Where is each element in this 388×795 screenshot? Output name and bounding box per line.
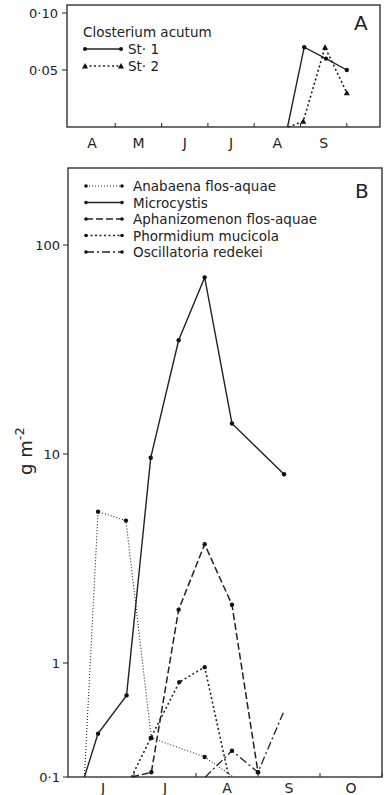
panel-a-x-tick-label: M	[132, 135, 144, 151]
panel-b-y-tick-label: 0·1	[39, 770, 60, 785]
panel-a: 0·100·05 AMJJAS A Closterium acutum St· …	[29, 5, 380, 151]
legend-circle-marker	[83, 47, 87, 51]
legend-circle-marker	[120, 250, 124, 254]
figure: 0·100·05 AMJJAS A Closterium acutum St· …	[0, 0, 388, 795]
panel-a-x-tick-label: S	[319, 135, 328, 151]
series-line	[132, 544, 258, 777]
data-point-triangle	[344, 90, 350, 96]
panel-b-legend-item: Anabaena flos-aquae	[84, 178, 276, 194]
panel-b-x-tick-label: J	[162, 780, 167, 795]
panel-a-legend-label: St· 1	[128, 41, 159, 57]
data-point	[230, 749, 234, 753]
series-line	[84, 277, 284, 777]
data-point-triangle	[322, 44, 328, 50]
data-point	[256, 770, 260, 774]
panel-b-series-aphanizomenon-flos-aquae	[132, 542, 260, 777]
panel-a-x-tick-label: A	[273, 135, 283, 151]
panel-a-letter: A	[354, 11, 368, 35]
panel-b-series-anabaena-flos-aquae	[84, 509, 233, 777]
y-axis-label-unit: g m	[15, 440, 36, 475]
data-point	[124, 518, 128, 522]
panel-b-legend-label: Microcystis	[133, 195, 208, 211]
data-point	[345, 68, 349, 72]
series-line	[84, 512, 233, 777]
data-point	[202, 665, 206, 669]
legend-circle-marker	[84, 250, 88, 254]
legend-circle-marker	[84, 184, 88, 188]
data-point	[230, 421, 234, 425]
legend-triangle-marker	[118, 63, 124, 69]
panel-b-y-tick-label: 1	[52, 656, 60, 671]
panel-b-legend-label: Oscillatoria redekei	[133, 244, 263, 260]
series-line	[288, 47, 347, 127]
panel-b-x-tick-label: A	[222, 780, 232, 795]
panel-b-legend-label: Anabaena flos-aquae	[133, 178, 276, 194]
panel-a-legend-label: St· 2	[128, 58, 159, 74]
panel-b-series-microcystis	[84, 275, 286, 777]
panel-b: 1001010·1 JJASO B Anabaena flos-aquaeMic…	[12, 168, 382, 795]
legend-circle-marker	[120, 217, 124, 221]
panel-a-x-tick-label: J	[182, 135, 187, 151]
panel-b-x-tick-label: O	[345, 780, 356, 795]
panel-b-y-axis-label: g m-2	[12, 427, 36, 475]
data-point	[202, 275, 206, 279]
legend-triangle-marker	[82, 63, 88, 69]
panel-b-legend-item: Oscillatoria redekei	[84, 244, 263, 260]
data-point	[282, 472, 286, 476]
panel-a-y-tick-label: 0·10	[29, 6, 58, 21]
legend-circle-marker	[120, 184, 124, 188]
data-point	[176, 338, 180, 342]
legend-circle-marker	[84, 234, 88, 238]
data-point	[176, 607, 180, 611]
panel-a-x-tick-label: A	[87, 135, 97, 151]
panel-a-series-1	[288, 45, 349, 127]
legend-circle-marker	[120, 234, 124, 238]
panel-b-x-tick-label: J	[100, 780, 105, 795]
legend-circle-marker	[120, 201, 124, 205]
y-axis-label-exponent: -2	[12, 427, 27, 440]
panel-a-legend-item: St· 2	[82, 58, 159, 74]
panel-a-y-tick-label: 0·05	[29, 63, 58, 78]
legend-circle-marker	[119, 47, 123, 51]
panel-b-y-tick-label: 100	[35, 238, 60, 253]
data-point-triangle	[300, 118, 306, 124]
panel-b-legend-item: Phormidium mucicola	[84, 228, 279, 244]
data-point	[124, 693, 128, 697]
data-point	[230, 603, 234, 607]
panel-a-legend-item: St· 1	[83, 41, 159, 57]
legend-circle-marker	[84, 217, 88, 221]
panel-b-legend-label: Phormidium mucicola	[133, 228, 279, 244]
data-point	[149, 456, 153, 460]
panel-a-legend-title: Closterium acutum	[83, 24, 212, 40]
data-point	[177, 680, 181, 684]
panel-b-series-phormidium-mucicola	[132, 665, 229, 777]
panel-b-legend-label: Aphanizomenon flos-aquae	[133, 211, 317, 227]
data-point	[149, 736, 153, 740]
data-point	[96, 509, 100, 513]
panel-b-y-tick-label: 10	[43, 447, 60, 462]
data-point	[302, 45, 306, 49]
legend-circle-marker	[84, 201, 88, 205]
data-point	[324, 56, 328, 60]
panel-b-x-tick-label: S	[285, 780, 294, 795]
panel-b-legend-item: Microcystis	[84, 195, 208, 211]
panel-a-series-2	[288, 44, 349, 127]
data-point	[202, 755, 206, 759]
data-point	[149, 770, 153, 774]
data-point	[96, 731, 100, 735]
series-line	[288, 47, 346, 127]
panel-b-letter: B	[355, 179, 369, 203]
panel-b-legend-item: Aphanizomenon flos-aquae	[84, 211, 317, 227]
data-point	[202, 542, 206, 546]
panel-a-x-tick-label: J	[228, 135, 233, 151]
